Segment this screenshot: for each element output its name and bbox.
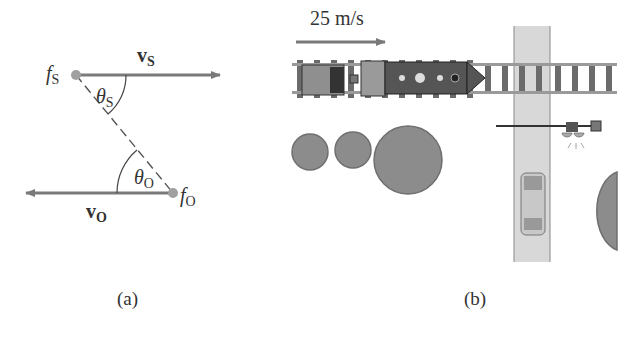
speed-label: 25 m/s bbox=[310, 7, 364, 30]
train bbox=[302, 61, 485, 96]
source-angle-label: θS bbox=[96, 85, 114, 111]
source-frequency-label: fS bbox=[46, 62, 59, 88]
panel-b bbox=[292, 26, 617, 262]
source-velocity-label: vS bbox=[137, 44, 155, 70]
car bbox=[521, 173, 545, 235]
trees bbox=[292, 126, 617, 250]
line-of-sight-dashed bbox=[76, 75, 173, 193]
observer-dot bbox=[168, 188, 178, 198]
panel-a bbox=[26, 70, 220, 198]
diagram-canvas bbox=[0, 0, 630, 339]
source-dot bbox=[71, 70, 81, 80]
caption-b: (b) bbox=[464, 288, 486, 310]
observer-angle-label: θO bbox=[134, 166, 154, 192]
observer-velocity-label: vO bbox=[86, 200, 107, 226]
caption-a: (a) bbox=[117, 288, 138, 310]
observer-frequency-label: fO bbox=[180, 184, 196, 210]
